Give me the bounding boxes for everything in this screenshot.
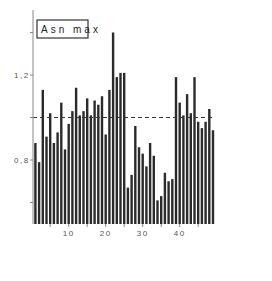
bar: [112, 33, 114, 225]
bar: [64, 149, 66, 224]
bar: [82, 111, 84, 224]
x-tick-label: 10: [63, 229, 75, 238]
bar: [164, 173, 166, 224]
bar: [97, 105, 99, 224]
bar: [93, 101, 95, 225]
bar: [101, 96, 103, 224]
bar: [186, 94, 188, 224]
bar: [153, 156, 155, 224]
bar: [160, 196, 162, 224]
bars: [34, 33, 214, 225]
bar: [34, 143, 36, 224]
bar: [86, 98, 88, 224]
bar: [197, 122, 199, 224]
y-tick-label: 0,8: [14, 156, 30, 165]
bar: [145, 166, 147, 224]
y-tick-label: 1,2: [14, 71, 30, 80]
bar: [175, 77, 177, 224]
bar: [134, 126, 136, 224]
bar: [71, 111, 73, 224]
x-tick-label: 40: [174, 229, 186, 238]
bar: [127, 188, 129, 224]
y-axis-ticks: 0,81,2: [14, 33, 33, 203]
bar: [68, 124, 70, 224]
bar: [105, 135, 107, 225]
x-tick-label: 20: [100, 229, 112, 238]
bar: [75, 88, 77, 224]
x-tick-label: 30: [137, 229, 149, 238]
bar: [190, 113, 192, 224]
bar: [182, 115, 184, 224]
bar: [123, 73, 125, 224]
bar: [56, 132, 58, 224]
bar: [156, 200, 158, 224]
bar: [204, 122, 206, 224]
bar: [79, 115, 81, 224]
bar: [149, 143, 151, 224]
legend-label: Asn max: [41, 24, 101, 35]
bar: [53, 143, 55, 224]
bar: [179, 103, 181, 224]
bar: [42, 90, 44, 224]
bar: [116, 77, 118, 224]
bar: [90, 115, 92, 224]
legend: Asn max: [37, 20, 101, 38]
bar-chart: 0,81,2 10203040 Asn max: [0, 0, 272, 281]
bar: [60, 103, 62, 224]
bar: [38, 162, 40, 224]
bar: [193, 77, 195, 224]
bar: [167, 181, 169, 224]
bar: [208, 109, 210, 224]
bar: [138, 147, 140, 224]
bar: [201, 128, 203, 224]
bar: [142, 154, 144, 224]
bar: [130, 175, 132, 224]
bar: [119, 73, 121, 224]
bar: [45, 137, 47, 224]
bar: [108, 90, 110, 224]
x-axis-ticks: 10203040: [50, 224, 198, 238]
bar: [49, 113, 51, 224]
bar: [171, 179, 173, 224]
bar: [212, 130, 214, 224]
